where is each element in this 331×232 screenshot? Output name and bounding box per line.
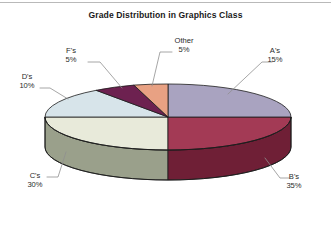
pie-label-a-name: A's: [270, 46, 280, 55]
pie-label-b-value: 35%: [277, 181, 311, 190]
pie-label-other: Other 5%: [163, 36, 205, 55]
pie-label-b: B's 35%: [277, 172, 311, 191]
pie-label-c-value: 30%: [17, 180, 53, 189]
pie-label-f-name: F's: [66, 46, 76, 55]
pie-label-f-value: 5%: [54, 55, 88, 64]
chart-canvas: Grade Distribution in Graphics Class: [0, 0, 331, 232]
pie-label-d: D's 10%: [8, 72, 46, 91]
pie-label-a-value: 15%: [258, 55, 292, 64]
pie-label-f: F's 5%: [54, 46, 88, 65]
pie-label-c: C's 30%: [17, 171, 53, 190]
pie-label-a: A's 15%: [258, 46, 292, 65]
leader-line-f: [88, 62, 122, 88]
pie-label-b-name: B's: [289, 172, 299, 181]
pie-label-d-name: D's: [22, 72, 33, 81]
leader-line-other: [152, 52, 172, 86]
pie-chart-3d: [0, 0, 331, 232]
pie-label-other-value: 5%: [163, 45, 205, 54]
pie-label-d-value: 10%: [8, 81, 46, 90]
pie-label-other-name: Other: [175, 36, 194, 45]
pie-label-c-name: C's: [30, 171, 41, 180]
pie-slice-a: [168, 84, 291, 117]
